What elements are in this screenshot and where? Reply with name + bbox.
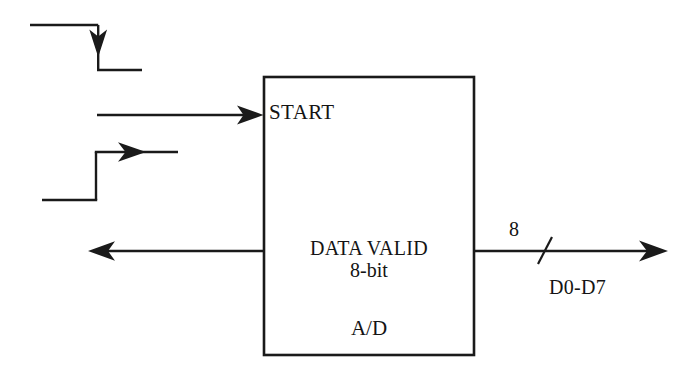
bus-width-label: 8 (509, 219, 519, 239)
block-label-start: START (269, 102, 335, 123)
bus-name-label: D0-D7 (549, 277, 606, 297)
start-falling-edge-waveform (30, 25, 142, 70)
block-label-data-valid: DATA VALID (264, 238, 474, 258)
block-label-bit-width: 8-bit (264, 260, 474, 280)
data-valid-rising-edge-waveform (42, 142, 178, 200)
a-d-converter-diagram: START DATA VALID 8-bit A/D 8 D0-D7 (0, 0, 692, 379)
data-valid-output-arrow (88, 241, 265, 261)
start-input-arrow (97, 105, 264, 124)
data-bus-output (474, 237, 668, 264)
block-label-device-type: A/D (264, 318, 474, 339)
